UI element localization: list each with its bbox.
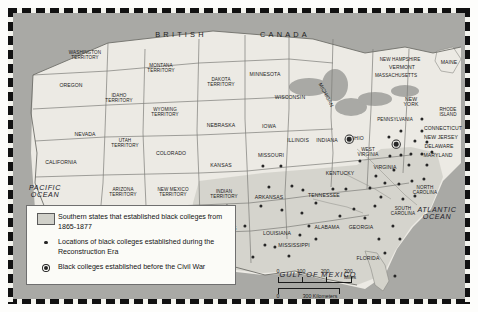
- scale-tick-kilometers: 0: [277, 293, 280, 299]
- legend-row: Southern states that established black c…: [34, 212, 228, 232]
- scale-miles-bar: [278, 277, 352, 283]
- ringed-dot-icon: [44, 266, 48, 270]
- scale-km-ticks: 0300 Kilometers: [270, 293, 374, 301]
- scale-tick-miles: 200: [321, 268, 330, 274]
- scale-tick-kilometers: 300 Kilometers: [303, 293, 338, 299]
- map-figure: BRITISHCANADAPACIFIC OCEANATLANTIC OCEAN…: [0, 0, 478, 312]
- scale-bar: 0100200300 Miles 0300 Kilometers: [270, 268, 374, 302]
- precivil-war-college-marker: [347, 137, 352, 142]
- scale-tick-miles: 100: [297, 268, 306, 274]
- legend-label: Black colleges established before the Ci…: [58, 262, 205, 272]
- border-right: [465, 8, 470, 304]
- scale-miles-ticks: 0100200300 Miles: [270, 268, 374, 276]
- border-bottom: [8, 299, 470, 304]
- precivil-war-college-marker: [394, 142, 399, 147]
- legend-dot-reconstruction: [34, 237, 58, 244]
- dot-icon: [44, 241, 47, 244]
- legend-row: Locations of black colleges established …: [34, 237, 228, 257]
- map-legend: Southern states that established black c…: [26, 205, 236, 285]
- legend-label: Locations of black colleges established …: [58, 237, 228, 257]
- legend-dot-precivil-war: [34, 262, 58, 270]
- swatch-icon: [37, 213, 55, 225]
- legend-label: Southern states that established black c…: [58, 212, 228, 232]
- legend-row: Black colleges established before the Ci…: [34, 262, 228, 272]
- scale-tick-miles: 0: [277, 268, 280, 274]
- legend-swatch-southern-states: [34, 212, 58, 225]
